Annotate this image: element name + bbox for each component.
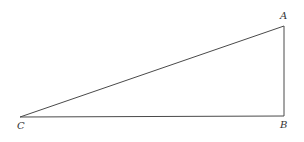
triangle-diagram: A B C [0, 0, 304, 142]
edge-ca [20, 26, 284, 117]
vertex-label-a: A [279, 10, 287, 21]
vertex-label-c: C [17, 120, 25, 131]
vertex-label-b: B [279, 119, 287, 130]
edge-bc [20, 116, 284, 117]
